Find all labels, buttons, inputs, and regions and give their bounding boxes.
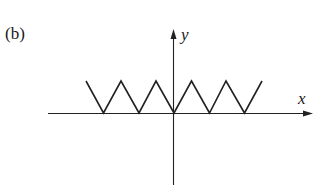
diagram-canvas <box>0 0 324 186</box>
y-axis-arrow-icon <box>171 29 177 39</box>
x-axis <box>48 111 313 117</box>
x-axis-arrow-icon <box>303 111 313 117</box>
